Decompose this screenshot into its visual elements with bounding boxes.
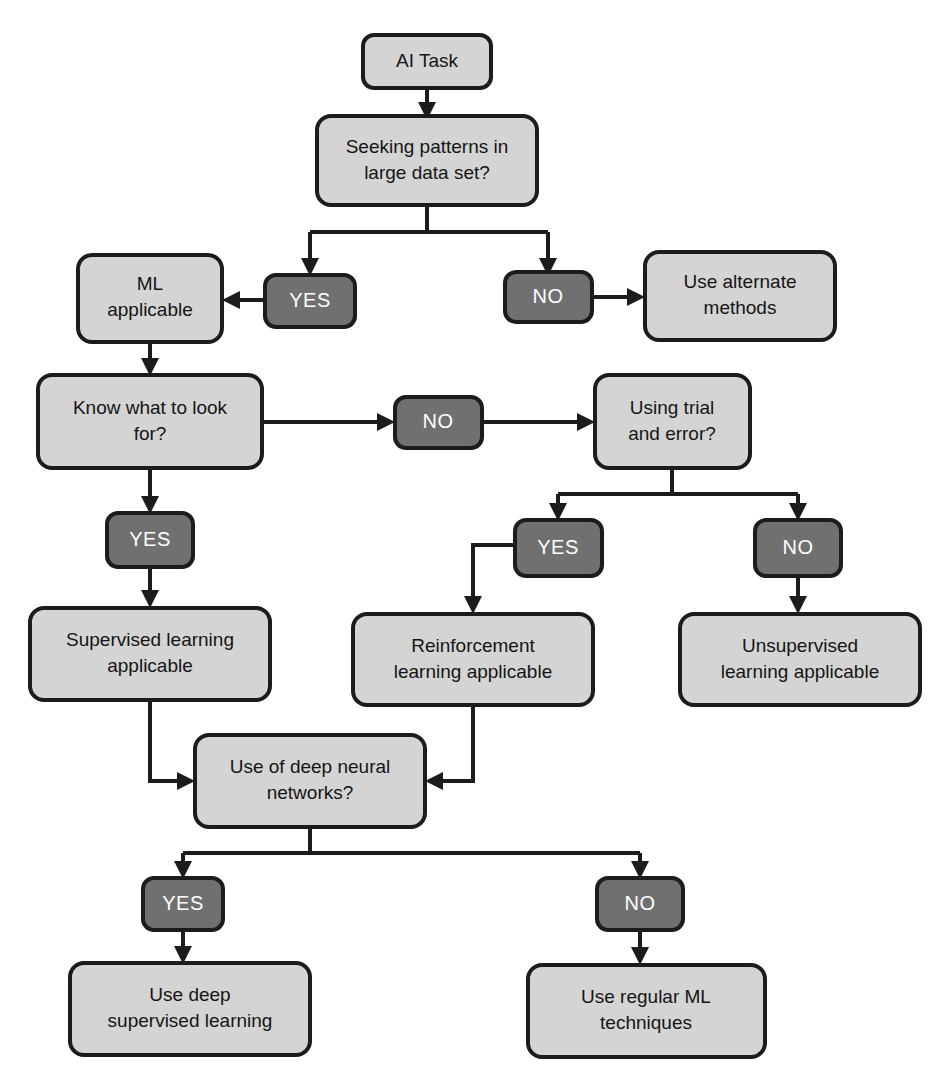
node-know-what-label-line-1: for? — [134, 423, 167, 444]
arrowhead-deepnn-left — [177, 772, 195, 790]
arrowhead-ml-applicable — [222, 291, 240, 309]
node-supervised-learning-applicable[interactable]: Supervised learning applicable — [30, 608, 270, 700]
badge-yes-deep-label: YES — [162, 892, 204, 914]
edge-trial-split — [558, 468, 798, 507]
node-use-deep-supervised-learning[interactable]: Use deep supervised learning — [70, 963, 310, 1055]
connector-layer — [141, 88, 807, 965]
badge-no-patterns-label: NO — [533, 285, 564, 307]
node-unsupervised-learning-applicable[interactable]: Unsupervised learning applicable — [680, 614, 920, 705]
badge-no-deep[interactable]: NO — [597, 878, 683, 930]
arrowhead-use-regular-ml — [631, 947, 649, 965]
node-supervised-label-line-1: applicable — [107, 655, 193, 676]
arrowhead-supervised — [141, 590, 159, 608]
badge-yes-trial-label: YES — [537, 536, 579, 558]
badge-no-patterns[interactable]: NO — [505, 272, 592, 322]
node-use-alternate-methods-shape — [645, 252, 835, 340]
node-using-trial-label-line-1: and error? — [628, 423, 716, 444]
node-use-deep-supervised-shape — [70, 963, 310, 1055]
node-use-regular-ml-techniques[interactable]: Use regular ML techniques — [528, 965, 765, 1057]
badge-yes-know-label: YES — [129, 528, 171, 550]
node-use-of-deep-neural-networks[interactable]: Use of deep neural networks? — [195, 735, 425, 827]
node-know-what-to-look-for-shape — [38, 375, 262, 468]
node-use-regular-ml-shape — [528, 965, 765, 1057]
badge-no-deep-label: NO — [625, 892, 656, 914]
badge-no-know-label: NO — [423, 410, 454, 432]
node-use-alternate-methods[interactable]: Use alternate methods — [645, 252, 835, 340]
arrowhead-no-know — [377, 413, 395, 431]
node-unsupervised-label-line-1: learning applicable — [721, 661, 879, 682]
edge-yestrial-to-reinforcement — [473, 545, 515, 600]
edge-reinforcement-to-deepnn — [441, 705, 473, 781]
node-use-regular-ml-label-line-0: Use regular ML — [581, 986, 711, 1007]
node-seeking-patterns-label-line-0: Seeking patterns in — [346, 136, 509, 157]
edge-seeking-split — [310, 205, 548, 262]
node-use-deep-supervised-label-line-1: supervised learning — [108, 1010, 273, 1031]
badge-yes-deep[interactable]: YES — [143, 878, 223, 930]
node-use-regular-ml-label-line-1: techniques — [600, 1012, 692, 1033]
node-seeking-patterns-label-line-1: large data set? — [364, 162, 490, 183]
node-ml-applicable-label-line-0: ML — [137, 273, 163, 294]
node-know-what-label-line-0: Know what to look — [73, 397, 228, 418]
node-using-trial-and-error[interactable]: Using trial and error? — [595, 375, 750, 468]
node-deepnn-label-line-1: networks? — [267, 782, 354, 803]
node-reinforcement-learning-applicable[interactable]: Reinforcement learning applicable — [353, 614, 593, 705]
node-unsupervised-label-line-0: Unsupervised — [742, 635, 858, 656]
node-ml-applicable[interactable]: ML applicable — [78, 255, 222, 342]
badge-yes-patterns-label: YES — [289, 289, 331, 311]
badge-yes-trial[interactable]: YES — [515, 520, 602, 576]
node-seeking-patterns[interactable]: Seeking patterns in large data set? — [317, 116, 537, 205]
node-unsupervised-shape — [680, 614, 920, 705]
node-use-alternate-methods-label-line-0: Use alternate — [683, 271, 796, 292]
arrowhead-deepnn-right — [425, 772, 443, 790]
node-supervised-label-line-0: Supervised learning — [66, 629, 234, 650]
badge-yes-know[interactable]: YES — [107, 513, 193, 567]
badge-no-trial[interactable]: NO — [755, 520, 841, 576]
node-deepnn-label-line-0: Use of deep neural — [230, 756, 391, 777]
node-supervised-shape — [30, 608, 270, 700]
flowchart-canvas: AI Task Seeking patterns in large data s… — [0, 0, 946, 1089]
arrowhead-using-trial — [577, 413, 595, 431]
edge-supervised-to-deepnn — [150, 700, 179, 781]
node-use-alternate-methods-label-line-1: methods — [704, 297, 777, 318]
badge-no-know[interactable]: NO — [395, 397, 482, 448]
arrowhead-reinforcement — [464, 596, 482, 614]
node-reinforcement-label-line-1: learning applicable — [394, 661, 552, 682]
node-reinforcement-label-line-0: Reinforcement — [411, 635, 535, 656]
arrowhead-use-alternate — [627, 288, 645, 306]
node-using-trial-shape — [595, 375, 750, 468]
node-use-deep-supervised-label-line-0: Use deep — [149, 984, 230, 1005]
flowchart-svg: AI Task Seeking patterns in large data s… — [0, 0, 946, 1089]
badge-no-trial-label: NO — [783, 536, 814, 558]
edge-deepnn-split — [183, 827, 640, 865]
node-ai-task-label-line-0: AI Task — [396, 50, 458, 71]
node-ai-task[interactable]: AI Task — [363, 35, 491, 88]
badge-yes-patterns[interactable]: YES — [265, 275, 355, 327]
arrowhead-unsupervised — [789, 596, 807, 614]
node-ml-applicable-label-line-1: applicable — [107, 299, 193, 320]
node-using-trial-label-line-0: Using trial — [630, 397, 714, 418]
node-seeking-patterns-shape — [317, 116, 537, 205]
node-deepnn-shape — [195, 735, 425, 827]
node-know-what-to-look-for[interactable]: Know what to look for? — [38, 375, 262, 468]
node-reinforcement-shape — [353, 614, 593, 705]
